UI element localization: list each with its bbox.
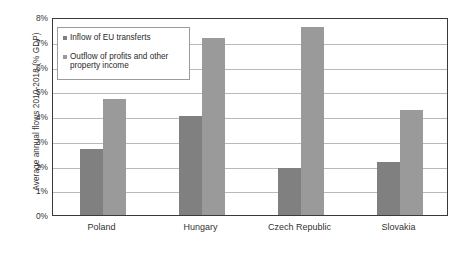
- bar-group: [251, 19, 350, 215]
- legend-item-outflow: Outflow of profits and other property in…: [63, 52, 185, 71]
- legend-item-inflow: Inflow of EU transferts: [63, 33, 185, 43]
- square-marker-icon: [63, 55, 67, 59]
- y-axis-tick-label: 1%: [36, 186, 48, 196]
- x-axis-category-labels: PolandHungaryCzech RepublicSlovakia: [52, 222, 448, 242]
- x-axis-category-label: Poland: [87, 222, 115, 232]
- bar-inflow: [278, 168, 301, 215]
- y-axis-tick-label: 3%: [36, 137, 48, 147]
- bar-inflow: [80, 149, 103, 215]
- bar-outflow: [103, 99, 126, 215]
- bar-outflow: [400, 110, 423, 215]
- y-axis-tick-label: 0%: [36, 211, 48, 221]
- y-axis-tick-label: 2%: [36, 162, 48, 172]
- x-axis-category-label: Slovakia: [381, 222, 415, 232]
- bar-group: [350, 19, 449, 215]
- bar-outflow: [202, 38, 225, 215]
- y-axis-tick-label: 4%: [36, 112, 48, 122]
- y-axis-tick-labels: 0%1%2%3%4%5%6%7%8%: [18, 18, 48, 216]
- x-axis-category-label: Czech Republic: [268, 222, 331, 232]
- bar-chart: Average annual flows 2010-2018 (% GDP) 0…: [0, 0, 468, 260]
- x-axis-category-label: Hungary: [183, 222, 217, 232]
- chart-legend: Inflow of EU transferts Outflow of profi…: [57, 27, 190, 80]
- y-axis-tick-label: 6%: [36, 63, 48, 73]
- square-marker-icon: [63, 36, 67, 40]
- bar-inflow: [179, 116, 202, 215]
- bar-outflow: [301, 27, 324, 215]
- bar-inflow: [377, 162, 400, 215]
- y-axis-tick-label: 5%: [36, 87, 48, 97]
- legend-item-label: Outflow of profits and other property in…: [70, 52, 185, 71]
- y-axis-tick-label: 8%: [36, 13, 48, 23]
- y-axis-tick-label: 7%: [36, 38, 48, 48]
- legend-item-label: Inflow of EU transferts: [70, 33, 151, 43]
